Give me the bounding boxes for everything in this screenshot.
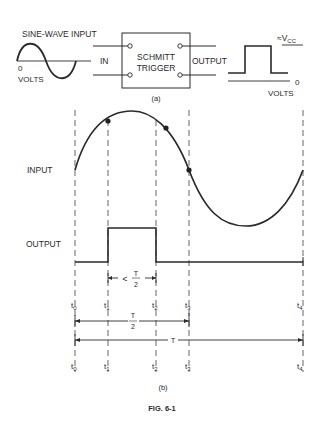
- input-volts-label: VOLTS: [18, 75, 44, 84]
- part-b: INPUT OUTPUT < T 2 t0 t1 t2 t3: [26, 110, 303, 392]
- half-numerator: T: [131, 312, 136, 319]
- arrowhead-right: [152, 276, 156, 280]
- svg-text:t2: t2: [152, 301, 158, 311]
- terminal-in-bottom: [128, 73, 132, 77]
- period-label: T: [171, 336, 176, 345]
- part-a: SINE-WAVE INPUT 0 VOLTS IN SCHMITT TRIGG…: [17, 29, 303, 103]
- input-zero-label: 0: [18, 64, 23, 73]
- half-denominator: 2: [131, 323, 135, 330]
- arrowhead-left: [75, 319, 80, 323]
- interval-lt-half-period: < T 2: [108, 270, 156, 288]
- pulse-waveform-icon: [228, 46, 288, 73]
- interval-half-period: T 2: [75, 312, 189, 330]
- time-labels-lower: t0 t1 t2 t3 t4: [71, 362, 303, 372]
- arrowhead-right: [184, 319, 189, 323]
- output-row-label: OUTPUT: [26, 239, 61, 249]
- svg-text:t4: t4: [297, 362, 303, 372]
- vcc-subscript: CC: [287, 38, 296, 44]
- threshold-point-lower-t2: [163, 125, 168, 130]
- svg-text:t4: t4: [297, 301, 303, 311]
- output-volts-label: VOLTS: [268, 89, 294, 98]
- arrowhead-left: [75, 338, 80, 342]
- svg-text:t2: t2: [152, 362, 158, 372]
- time-labels-upper: t0 t1 t2 t3 t4: [71, 301, 303, 311]
- block-label-trigger: TRIGGER: [137, 63, 176, 73]
- caption-b: (b): [158, 383, 168, 392]
- block-label-schmitt: SCHMITT: [137, 52, 175, 62]
- arrowhead-right: [298, 338, 303, 342]
- time-markers: [75, 110, 303, 372]
- svg-text:t1: t1: [104, 362, 110, 372]
- threshold-point-upper-t1: [105, 118, 110, 123]
- interval-denominator: 2: [134, 281, 138, 288]
- sine-wave-input-label: SINE-WAVE INPUT: [22, 29, 97, 39]
- zero-crossing-point-t3: [186, 167, 191, 172]
- svg-text:t1: t1: [104, 301, 110, 311]
- arrowhead-left: [108, 276, 112, 280]
- output-label: OUTPUT: [192, 56, 227, 66]
- vcc-prefix: ≈V: [277, 33, 288, 43]
- figure-caption: FIG. 6-1: [148, 404, 176, 413]
- interval-numerator: T: [134, 270, 139, 277]
- less-than-symbol: <: [122, 274, 127, 284]
- caption-a: (a): [151, 94, 161, 103]
- vcc-label: ≈VCC: [277, 33, 297, 44]
- svg-text:t3: t3: [185, 362, 191, 372]
- svg-text:t3: t3: [185, 301, 191, 311]
- svg-text:t0: t0: [71, 362, 77, 372]
- terminal-out-top: [178, 44, 182, 48]
- terminal-in-top: [128, 44, 132, 48]
- terminal-out-bottom: [178, 73, 182, 77]
- input-row-label: INPUT: [27, 165, 53, 175]
- svg-text:t0: t0: [71, 301, 77, 311]
- output-zero-label: 0: [295, 78, 300, 87]
- in-label: IN: [100, 56, 109, 66]
- schmitt-trigger-figure: SINE-WAVE INPUT 0 VOLTS IN SCHMITT TRIGG…: [0, 0, 325, 427]
